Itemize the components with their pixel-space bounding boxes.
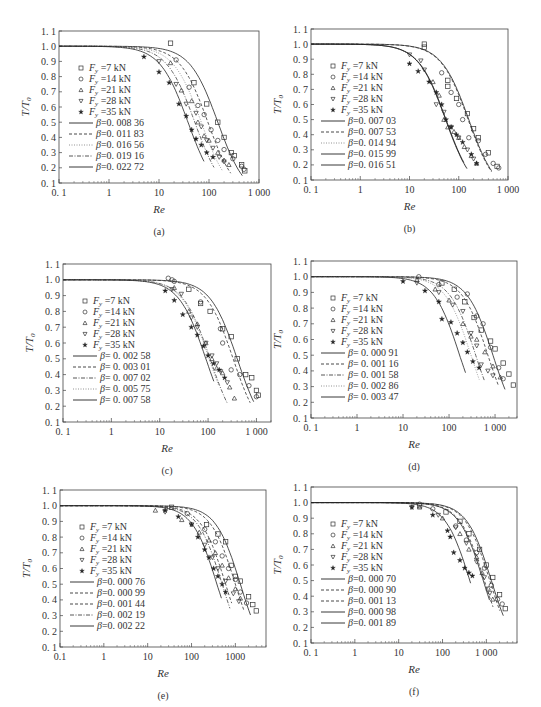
y-tick-label: 0. 5 [293, 114, 308, 125]
y-tick-label: 0. 5 [293, 575, 308, 586]
legend-marker-triangle-up [80, 547, 84, 551]
y-tick-label: 0. 9 [41, 56, 56, 67]
data-point-star [439, 316, 444, 321]
legend-marker-circle [83, 310, 87, 314]
chart-panel-e: 0. 10. 20. 30. 40. 50. 60. 70. 80. 91. 0… [20, 485, 266, 703]
series-points [415, 278, 503, 379]
data-point-circle [437, 282, 441, 286]
legend-label: β= 0. 005 75 [99, 383, 151, 394]
series-points [153, 508, 242, 600]
series-points [157, 60, 226, 164]
panel-caption: (a) [153, 226, 164, 238]
legend-label: β= 0. 007 02 [99, 372, 151, 383]
legend-label: β=0. 000 70 [347, 573, 396, 584]
series-points [187, 287, 261, 397]
legend-marker-triangle-up [331, 318, 335, 322]
legend-marker-square [83, 299, 87, 303]
data-point-triangle-down [174, 82, 178, 86]
y-tick-label: 0. 4 [293, 591, 308, 602]
y-tick-label: 1. 1 [41, 26, 56, 37]
fit-curve [63, 280, 250, 403]
panel-caption: (e) [157, 690, 168, 702]
y-tick-label: 0. 8 [293, 69, 308, 80]
x-tick-label: 1 [101, 651, 106, 662]
legend-label: β= 0. 001 16 [347, 358, 399, 369]
data-point-star [202, 547, 207, 552]
data-point-triangle-up [447, 298, 451, 302]
data-point-triangle-down [437, 291, 441, 295]
legend-label: β= 0. 007 58 [99, 394, 151, 405]
data-point-triangle-down [450, 303, 454, 307]
data-point-circle [457, 102, 461, 106]
y-tick-label: 1. 1 [293, 256, 308, 267]
y-tick-label: 0. 4 [45, 369, 60, 380]
y-tick-label: 0. 8 [293, 303, 308, 314]
data-point-triangle-down [189, 316, 193, 320]
fit-curve [60, 506, 232, 603]
x-tick-label: 10 [398, 422, 408, 433]
data-point-square [254, 388, 258, 392]
fit-curve [311, 503, 500, 611]
y-tick-label: 0. 4 [41, 132, 56, 143]
legend-label: β= 0. 003 01 [99, 361, 151, 372]
data-point-triangle-down [216, 567, 220, 571]
data-point-square [497, 592, 501, 596]
x-tick-label: 1 [358, 184, 363, 195]
panel-caption: (b) [404, 223, 416, 235]
y-axis-label: T/T0 [271, 95, 285, 114]
y-tick-label: 0. 8 [41, 71, 56, 82]
legend-label: β=0. 019 16 [95, 150, 144, 161]
data-point-triangle-down [491, 374, 495, 378]
series-points [174, 58, 246, 172]
x-tick-label: 10 [405, 184, 415, 195]
legend-marker-circle [79, 77, 83, 81]
series-points [163, 288, 227, 380]
x-axis-label: Re [407, 663, 420, 675]
data-point-triangle-up [232, 396, 236, 400]
data-point-circle [229, 368, 233, 372]
x-tick-label: 1 [352, 647, 357, 658]
x-tick-label: 1 [107, 187, 112, 198]
data-point-triangle-up [207, 538, 211, 542]
y-tick-label: 0. 7 [42, 547, 57, 558]
y-tick-label: 0. 2 [42, 626, 57, 637]
legend-marker-star [331, 108, 336, 112]
data-point-star [195, 332, 200, 337]
x-tick-label: 1 [355, 422, 360, 433]
legend-marker-square [331, 296, 335, 300]
legend-marker-star [331, 340, 336, 344]
legend-marker-triangle-up [83, 321, 87, 325]
y-axis-label: T/T0 [271, 330, 285, 349]
data-point-triangle-down [217, 155, 221, 159]
data-point-star [422, 288, 427, 293]
fit-curve [60, 506, 251, 615]
data-point-triangle-down [434, 103, 438, 107]
y-axis-label: T/T0 [23, 333, 37, 352]
x-tick-label: 1 000 [245, 426, 268, 437]
data-point-square [463, 300, 467, 304]
data-point-triangle-up [475, 337, 479, 341]
fit-curve [311, 503, 493, 607]
data-point-triangle-down [231, 592, 235, 596]
x-tick-label: 1 000 [248, 187, 271, 198]
legend-marker-circle [331, 75, 335, 79]
data-point-circle [220, 341, 224, 345]
data-point-square [250, 376, 254, 380]
x-tick-label: 1000 [225, 651, 245, 662]
data-point-triangle-down [486, 369, 490, 373]
x-tick-label: 1 [109, 426, 114, 437]
legend-label: β=0. 002 22 [96, 620, 145, 631]
legend-label: β= 0. 003 47 [347, 391, 399, 402]
data-point-star [180, 312, 185, 317]
data-point-square [507, 372, 511, 376]
data-point-triangle-up [202, 134, 206, 138]
data-point-star [199, 142, 204, 147]
y-tick-label: 0. 2 [293, 397, 308, 408]
fit-curve [60, 506, 244, 610]
legend-marker-square [79, 66, 83, 70]
data-point-star [451, 550, 456, 555]
legend-label: β= 0. 000 91 [347, 347, 399, 358]
y-tick-label: 0. 5 [45, 353, 60, 364]
data-point-star [220, 582, 225, 587]
data-point-square [204, 522, 208, 526]
